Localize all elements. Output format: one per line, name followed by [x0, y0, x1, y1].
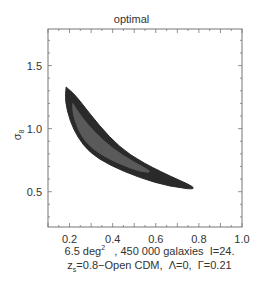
svg-text:1.5: 1.5: [27, 60, 42, 72]
caption-survey-area: 6.5 deg: [65, 245, 102, 257]
caption-line-2: zs=0.8−Open CDM, Λ=0, Γ=0.21: [18, 259, 263, 273]
y-axis-label: σ8: [11, 130, 25, 141]
confidence-contours: [65, 87, 193, 189]
svg-text:0.5: 0.5: [27, 186, 42, 198]
caption-galaxies: , 450 000 galaxies I=24.: [105, 245, 234, 257]
chart-title: optimal: [0, 13, 263, 25]
caption-cosmology: =0.8−Open CDM, Λ=0, Γ=0.21: [76, 259, 231, 271]
contour-chart: 0.20.40.60.81.00.51.01.5 σ8: [0, 0, 263, 282]
caption-line-1: 6.5 deg2 , 450 000 galaxies I=24.: [18, 244, 263, 257]
tick-labels: 0.20.40.60.81.00.51.01.5: [27, 60, 250, 245]
svg-text:1.0: 1.0: [27, 123, 42, 135]
